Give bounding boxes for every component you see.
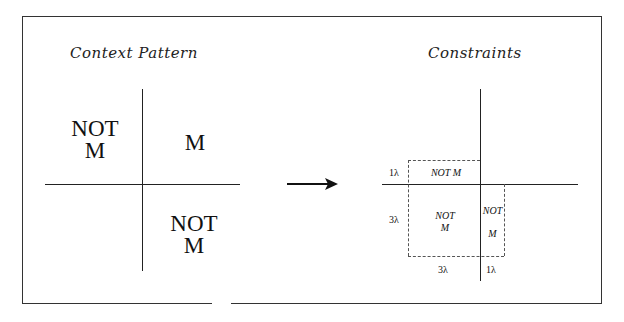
frame-top-border xyxy=(22,16,601,17)
dashed-boundary xyxy=(408,160,480,161)
left-block-label: NOT M xyxy=(420,210,470,234)
frame-right-border xyxy=(601,16,602,303)
label-not: NOT xyxy=(420,210,470,222)
vertical-axis xyxy=(142,89,143,271)
dimension-left-height: 3λ xyxy=(389,214,399,225)
context-pattern-title: Context Pattern xyxy=(70,44,198,62)
dimension-right-width: 1λ xyxy=(486,264,496,275)
frame-bottom-border xyxy=(231,303,602,304)
dashed-boundary xyxy=(408,256,504,257)
horizontal-axis xyxy=(382,184,578,185)
quadrant-top-left-label: NOT M xyxy=(60,118,130,162)
constraints-title: Constraints xyxy=(428,44,522,62)
dashed-boundary xyxy=(408,160,409,256)
vertical-axis xyxy=(480,89,481,281)
quadrant-bottom-right-label: NOT M xyxy=(158,213,230,257)
frame-bottom-border xyxy=(22,303,212,304)
top-strip-label: NOT M xyxy=(418,167,474,179)
quadrant-top-right-label: M xyxy=(165,132,225,154)
label-m: M xyxy=(60,140,130,162)
right-strip-top-label: NOT xyxy=(481,205,504,217)
right-strip-bottom-label: M xyxy=(481,228,504,240)
dimension-top-height: 1λ xyxy=(389,167,399,178)
label-not: NOT xyxy=(60,118,130,140)
arrow-right-icon xyxy=(287,176,339,192)
label-m: M xyxy=(420,222,470,234)
dashed-boundary xyxy=(504,184,505,256)
horizontal-axis xyxy=(45,184,240,185)
frame-left-border xyxy=(22,16,23,303)
label-m: M xyxy=(158,235,230,257)
dimension-left-width: 3λ xyxy=(438,264,448,275)
label-not: NOT xyxy=(158,213,230,235)
